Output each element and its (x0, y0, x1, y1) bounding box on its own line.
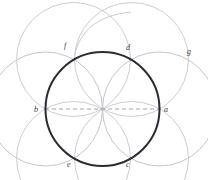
point-label-a: a (164, 106, 168, 114)
point-label-f: f (64, 42, 66, 50)
point-label-c: c (126, 161, 130, 169)
geometric-figure: a b c d e f g (0, 0, 208, 180)
upper-sweep-arc (75, 12, 132, 56)
point-label-e: e (67, 161, 71, 169)
point-label-g: g (187, 48, 191, 56)
construction-drawing (0, 0, 208, 180)
point-label-b: b (34, 106, 38, 114)
point-label-d: d (126, 44, 130, 52)
